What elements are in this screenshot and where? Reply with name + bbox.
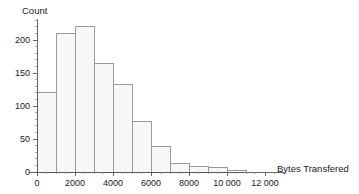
x-tick-label: 0: [34, 178, 39, 188]
x-axis-title: Bytes Transfered: [277, 163, 349, 174]
histogram-bar: [170, 163, 189, 172]
y-axis-title: Count: [22, 5, 48, 16]
y-tick-label: 200: [15, 35, 30, 45]
y-tick-label: 150: [15, 68, 30, 78]
histogram-bar: [208, 167, 227, 172]
y-axis-ticks: [33, 20, 37, 172]
histogram-bars: [37, 27, 246, 172]
histogram-chart: 0200040006000800010 00012 000 0501001502…: [0, 0, 359, 194]
x-tick-label: 2000: [65, 178, 85, 188]
x-tick-label: 12 000: [251, 178, 279, 188]
histogram-bar: [132, 121, 151, 172]
x-tick-label: 4000: [103, 178, 123, 188]
x-axis-ticks: [37, 172, 284, 176]
x-tick-label: 6000: [141, 178, 161, 188]
x-axis-tick-labels: 0200040006000800010 00012 000: [34, 178, 278, 188]
y-tick-label: 0: [25, 167, 30, 177]
y-axis-tick-labels: 050100150200: [15, 35, 30, 177]
histogram-bar: [56, 33, 75, 172]
y-tick-label: 50: [20, 134, 30, 144]
x-tick-label: 8000: [179, 178, 199, 188]
histogram-bar: [94, 64, 113, 172]
histogram-bar: [189, 167, 208, 172]
histogram-bar: [113, 85, 132, 172]
histogram-plot-area: 0200040006000800010 00012 000 0501001502…: [0, 0, 359, 194]
histogram-bar: [75, 27, 94, 172]
histogram-bar: [151, 146, 170, 172]
histogram-bar: [37, 92, 56, 172]
x-tick-label: 10 000: [213, 178, 241, 188]
y-tick-label: 100: [15, 101, 30, 111]
